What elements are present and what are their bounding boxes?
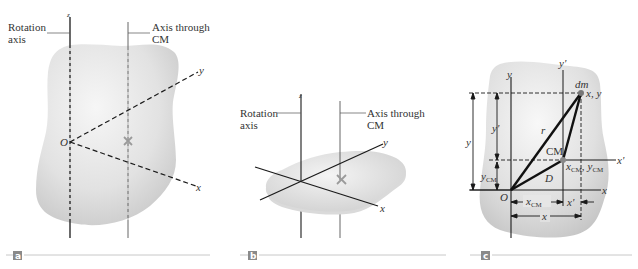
y-axis-label: y: [506, 68, 512, 80]
cm-axis-label-1: Axis through: [152, 21, 210, 33]
dim-y-label: y: [465, 136, 471, 148]
r-label: r: [541, 124, 546, 136]
y-axis-label: y: [198, 64, 204, 76]
dm-coords-label: x, y: [585, 87, 601, 99]
y-prime-axis-label: y': [558, 57, 567, 69]
origin-label: O: [500, 191, 508, 203]
dim-x-label: x: [541, 210, 547, 222]
x-axis-label: x: [379, 202, 385, 214]
z-axis-label: z: [66, 11, 70, 19]
rotation-axis-label-2: axis: [8, 33, 26, 45]
x-axis-label: x: [601, 184, 607, 196]
origin-label: O: [60, 136, 68, 148]
svg-text:b: b: [250, 251, 257, 261]
panel-a: z Rotation axis Axis through CM y x O a: [6, 11, 210, 261]
x-axis-label: x: [195, 181, 201, 193]
figure-canvas: z Rotation axis Axis through CM y x O a …: [0, 0, 638, 269]
rotation-axis-label-1: Rotation: [240, 107, 278, 119]
rotation-axis-label-2: axis: [240, 119, 258, 131]
D-label: D: [544, 172, 553, 184]
dim-y-prime-label: y': [491, 122, 500, 134]
svg-text:a: a: [15, 251, 21, 261]
panel-b: z Rotation axis Axis through CM y x b: [240, 92, 446, 261]
svg-text:c: c: [483, 251, 488, 261]
rigid-body-shape: [36, 44, 179, 225]
z-axis-label: z: [298, 92, 302, 100]
dm-point: [578, 90, 584, 96]
cm-label: CM: [546, 145, 563, 157]
x-prime-axis-label: x': [616, 154, 625, 166]
cm-axis-label-2: CM: [152, 33, 169, 45]
panel-c: y y' x x' O dm x, y CM xCM,yCM r D y y' …: [465, 57, 632, 261]
dim-x-prime-label: x': [566, 196, 575, 208]
cm-axis-label-1: Axis through: [367, 107, 425, 119]
cm-axis-label-2: CM: [367, 119, 384, 131]
y-axis-label: y: [382, 136, 388, 148]
rotation-axis-label-1: Rotation: [8, 21, 46, 33]
flat-plate-shape: [266, 151, 406, 212]
